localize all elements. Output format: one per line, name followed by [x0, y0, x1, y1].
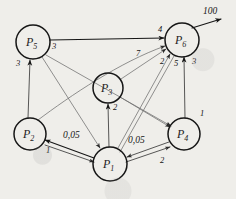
edge-weight-label: 0,05: [128, 135, 145, 145]
edge-weight-label: 3: [51, 41, 56, 51]
edge-p1-p3: [108, 104, 109, 147]
node-label-p6: P6: [174, 33, 186, 49]
edge-weight-label: 2: [113, 102, 118, 112]
edge-weight-label: 1: [200, 108, 204, 118]
node-label-p4: P4: [176, 127, 188, 143]
edge-p1-p2: [45, 140, 94, 158]
edge-p6-outflow: [192, 19, 221, 28]
node-label-p3: P3: [100, 81, 112, 97]
node-label-p1: P1: [102, 157, 114, 173]
edge-weight-label: 0,05: [63, 130, 80, 140]
edge-p2-p1: [45, 145, 94, 162]
edge-weight-label: 3: [15, 58, 20, 68]
edge-weight-label: 1: [46, 145, 50, 155]
edge-p2-p5: [28, 60, 30, 118]
node-label-p5: P5: [25, 35, 37, 51]
source-flow-label: 100: [203, 6, 218, 16]
edge-weight-label: 4: [158, 24, 163, 34]
graph-svg: P1 P2 P3 P4 P5 P6 3 4 3 7 2 5 3 2 1 1 0,…: [0, 0, 236, 199]
edge-weight-label: 3: [191, 56, 196, 66]
edge-p1-p6: [118, 54, 170, 148]
node-label-p2: P2: [22, 127, 34, 143]
edge-p5-p6: [50, 38, 164, 40]
diagram-canvas: P1 P2 P3 P4 P5 P6 3 4 3 7 2 5 3 2 1 1 0,…: [0, 0, 236, 199]
edge-weight-label: 2: [160, 155, 165, 165]
edge-weight-label: 5: [174, 58, 178, 68]
edge-p3-p4: [120, 97, 170, 127]
edge-p4-p6: [184, 57, 185, 118]
